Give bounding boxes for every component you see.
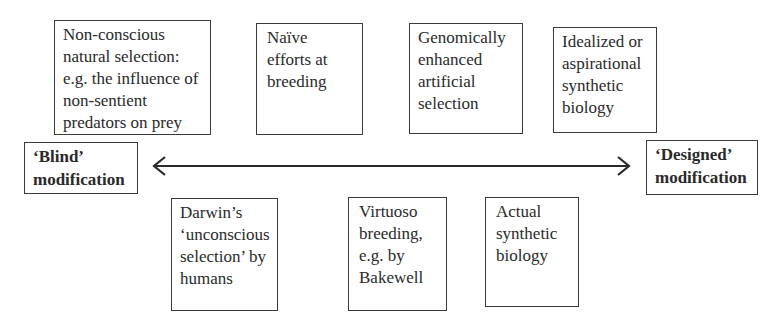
- box-genomically-enhanced-artificial-selection: Genomically enhanced artificial selectio…: [409, 23, 523, 134]
- box-text-line: selection: [418, 93, 516, 115]
- box-text-line: Non-conscious: [63, 24, 204, 46]
- box-non-conscious-natural-selection: Non-conscious natural selection: e.g. th…: [54, 20, 211, 135]
- box-text-line: efforts at: [267, 49, 356, 71]
- box-text-line: Virtuoso: [359, 201, 440, 223]
- box-text-line: selection’ by: [180, 246, 271, 268]
- box-text-line: ‘unconscious: [180, 224, 271, 246]
- box-text-line: natural selection:: [63, 46, 204, 68]
- box-text-line: predators on prey: [63, 112, 204, 134]
- box-text-line: enhanced: [418, 49, 516, 71]
- box-darwins-unconscious-selection: Darwin’s ‘unconscious selection’ by huma…: [171, 198, 278, 311]
- box-text-line: synthetic: [562, 75, 650, 97]
- box-text-line: Naïve: [267, 27, 356, 49]
- box-idealized-synthetic-biology: Idealized or aspirational synthetic biol…: [553, 27, 657, 133]
- box-text-line: humans: [180, 268, 271, 290]
- box-text-line: e.g. the influence of: [63, 68, 204, 90]
- box-text-line: Darwin’s: [180, 202, 271, 224]
- box-text-line: biology: [562, 97, 650, 119]
- box-text-line: Actual: [496, 201, 572, 223]
- box-text-line: synthetic: [496, 223, 572, 245]
- box-text-line: artificial: [418, 71, 516, 93]
- box-text-line: biology: [496, 245, 572, 267]
- box-text-line: e.g. by: [359, 245, 440, 267]
- box-text-line: aspirational: [562, 53, 650, 75]
- box-text-line: Bakewell: [359, 267, 440, 289]
- box-text-line: breeding: [267, 71, 356, 93]
- box-naive-efforts-at-breeding: Naïve efforts at breeding: [256, 23, 363, 135]
- box-actual-synthetic-biology: Actual synthetic biology: [485, 197, 579, 307]
- box-text-line: non-sentient: [63, 90, 204, 112]
- box-text-line: Idealized or: [562, 31, 650, 53]
- box-text-line: Genomically: [418, 27, 516, 49]
- box-virtuoso-breeding: Virtuoso breeding, e.g. by Bakewell: [348, 197, 447, 311]
- box-text-line: breeding,: [359, 223, 440, 245]
